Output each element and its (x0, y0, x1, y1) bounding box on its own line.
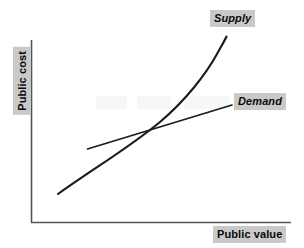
chart-figure: Supply Demand Public value Public cost (0, 0, 304, 248)
x-axis-title: Public value (213, 226, 286, 243)
plot-area (0, 0, 304, 248)
demand-line (88, 105, 233, 149)
supply-series-label: Supply (210, 10, 255, 27)
demand-series-label: Demand (234, 93, 286, 110)
y-axis-title: Public cost (13, 47, 31, 115)
y-axis-title-container: Public cost (0, 0, 40, 180)
